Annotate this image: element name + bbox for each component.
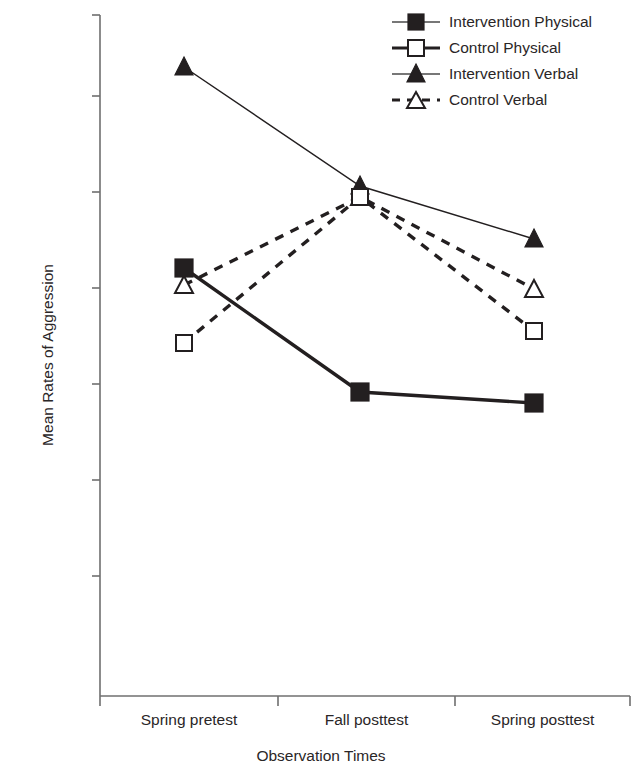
series-line-control-verbal	[184, 197, 534, 289]
chart-figure: Intervention Physical Control Physical I…	[0, 0, 642, 782]
x-tick-label-spring-pretest: Spring pretest	[100, 712, 278, 728]
y-axis	[92, 15, 100, 696]
x-axis-title: Observation Times	[0, 748, 642, 764]
legend-item-intervention-physical[interactable]: Intervention Physical	[449, 14, 592, 30]
y-axis-title: Mean Rates of Aggression	[40, 175, 56, 535]
chart-plot-area	[0, 0, 642, 782]
series-markers-intervention-verbal	[175, 57, 543, 247]
series-markers-intervention-physical	[175, 259, 543, 412]
legend-item-control-verbal[interactable]: Control Verbal	[449, 92, 547, 108]
x-tick-label-spring-posttest: Spring posttest	[455, 712, 630, 728]
legend-glyphs	[392, 14, 440, 108]
legend-item-control-physical[interactable]: Control Physical	[449, 40, 561, 56]
legend-item-intervention-verbal[interactable]: Intervention Verbal	[449, 66, 578, 82]
x-axis	[100, 696, 630, 706]
series-line-control-physical	[184, 197, 534, 343]
series-markers-control-physical	[176, 189, 542, 351]
x-tick-label-fall-posttest: Fall posttest	[278, 712, 455, 728]
